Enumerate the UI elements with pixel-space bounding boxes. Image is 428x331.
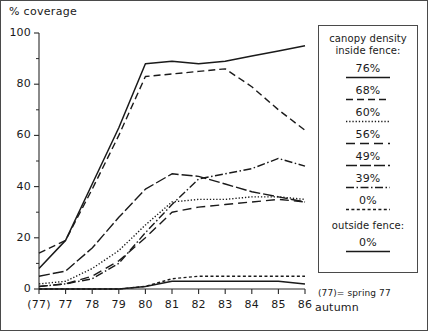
x-axis-label: autumn (315, 301, 359, 314)
legend-title: canopy density inside fence: (319, 33, 417, 57)
legend-item-label: 76% (319, 62, 417, 75)
y-tick-label: 80 (3, 77, 31, 90)
legend-outside-entries: 0% (319, 236, 417, 253)
legend-item[interactable]: 76% (319, 62, 417, 79)
legend-item-label: 49% (319, 150, 417, 163)
legend-line-sample (345, 76, 391, 79)
legend-line-sample (345, 120, 391, 123)
legend-line-sample (345, 208, 391, 211)
legend-item-label: 56% (319, 128, 417, 141)
y-tick-label: 0 (3, 282, 31, 295)
series-line (39, 281, 305, 289)
series-line (39, 174, 305, 276)
y-tick-label: 20 (3, 231, 31, 244)
chart-footnote: (77)= spring 77 (318, 288, 391, 298)
legend-item[interactable]: 56% (319, 128, 417, 145)
y-tick-label: 40 (3, 180, 31, 193)
axes (39, 33, 305, 289)
legend-item[interactable]: 49% (319, 150, 417, 167)
y-tick-label: 60 (3, 128, 31, 141)
series-line (39, 158, 305, 286)
legend-box: canopy density inside fence: 76%68%60%56… (318, 25, 418, 273)
legend-item-label: 0% (319, 194, 417, 207)
legend-title-line1: canopy density (319, 33, 417, 45)
legend-entries: 76%68%60%56%49%39%0% (319, 62, 417, 211)
legend-outside-fence-title: outside fence: (319, 220, 417, 231)
data-series-group (39, 46, 305, 289)
legend-title-line2: inside fence: (319, 45, 417, 57)
legend-line-sample (345, 98, 391, 101)
legend-item[interactable]: 68% (319, 84, 417, 101)
legend-item-label: 68% (319, 84, 417, 97)
chart-figure: % coverage 020406080100 (77)777879808182… (0, 0, 428, 331)
legend-line-sample (345, 142, 391, 145)
legend-item[interactable]: 60% (319, 106, 417, 123)
y-axis-ticks (34, 33, 39, 289)
series-line (39, 276, 305, 289)
series-line (39, 197, 305, 284)
series-line (39, 46, 305, 269)
legend-item-label: 39% (319, 172, 417, 185)
series-line (39, 69, 305, 253)
y-tick-label: 100 (3, 26, 31, 39)
legend-line-sample (345, 250, 391, 253)
legend-item-label: 0% (319, 236, 417, 249)
legend-item[interactable]: 39% (319, 172, 417, 189)
legend-item[interactable]: 0% (319, 194, 417, 211)
legend-item-label: 60% (319, 106, 417, 119)
legend-item[interactable]: 0% (319, 236, 417, 253)
legend-line-sample (345, 164, 391, 167)
legend-line-sample (345, 186, 391, 189)
